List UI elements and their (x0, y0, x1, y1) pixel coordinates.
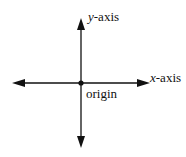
y-axis-suffix: -axis (94, 9, 119, 24)
x-axis-right-arrow-icon (137, 79, 150, 87)
x-axis-left-arrow-icon (12, 79, 25, 87)
y-axis-down-arrow-icon (77, 136, 85, 148)
origin-dot-icon (78, 80, 83, 85)
x-axis-suffix: -axis (156, 70, 181, 85)
x-axis-label: x-axis (150, 71, 181, 84)
y-axis-label: y-axis (88, 10, 119, 23)
origin-label: origin (86, 87, 117, 100)
y-axis-up-arrow-icon (77, 18, 85, 30)
